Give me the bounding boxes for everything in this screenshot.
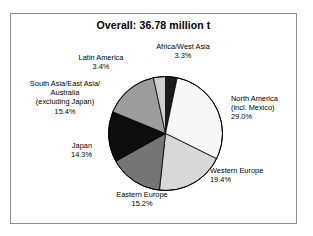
pie-slices xyxy=(108,77,222,191)
pie-label-africa-west-asia-name: Africa/West Asia xyxy=(156,42,210,51)
pie-label-north-america-name: North America xyxy=(231,94,278,103)
pie-label-north-america: North America (incl. Mexico) 29.0% xyxy=(231,94,305,122)
pie-label-japan-percent: 14.3% xyxy=(46,150,92,159)
pie-label-japan-name: Japan xyxy=(72,141,92,150)
pie-label-latin-america-percent: 3.4% xyxy=(66,62,136,71)
pie-label-south-asia-line3: (excluding Japan) xyxy=(16,97,114,106)
pie-label-africa-west-asia-percent: 3.3% xyxy=(140,51,226,60)
pie-label-south-asia-line2: Australia xyxy=(16,88,114,97)
pie-label-eastern-europe: Eastern Europe 15.2% xyxy=(100,190,184,208)
pie-chart-graphic xyxy=(107,75,224,192)
pie-label-africa-west-asia: Africa/West Asia 3.3% xyxy=(140,42,226,60)
pie-label-south-asia-line1: South Asia/East Asia/ xyxy=(30,79,100,88)
pie-label-western-europe-percent: 19.4% xyxy=(210,175,288,184)
pie-label-western-europe: Western Europe 19.4% xyxy=(210,166,288,184)
pie-label-western-europe-name: Western Europe xyxy=(210,166,263,175)
pie-label-south-asia-east-asia-australia: South Asia/East Asia/ Australia (excludi… xyxy=(16,79,114,116)
pie-label-latin-america: Latin America 3.4% xyxy=(66,53,136,71)
pie-label-latin-america-name: Latin America xyxy=(79,53,124,62)
pie-chart-figure: Overall: 36.78 million t Africa/West Asi… xyxy=(0,0,313,236)
pie-label-japan: Japan 14.3% xyxy=(46,141,92,159)
pie-label-eastern-europe-name: Eastern Europe xyxy=(116,190,167,199)
pie-label-eastern-europe-percent: 15.2% xyxy=(100,199,184,208)
chart-title: Overall: 36.78 million t xyxy=(10,19,297,31)
pie-label-south-asia-percent: 15.4% xyxy=(16,107,114,116)
pie-label-north-america-percent: 29.0% xyxy=(231,112,305,121)
pie-label-north-america-subname: (incl. Mexico) xyxy=(231,103,305,112)
pie-svg xyxy=(107,75,224,192)
